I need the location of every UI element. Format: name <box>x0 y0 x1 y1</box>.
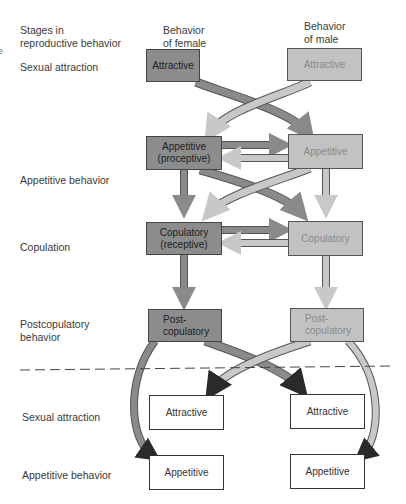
male-postcopulatory-box: Post- copulatory <box>290 308 364 342</box>
male-appetitive-label: Appetitive <box>304 146 348 158</box>
female-attractive-next-box: Attractive <box>149 395 224 430</box>
female-postcopulatory-label: Post- copulatory <box>163 314 209 338</box>
cycle-divider <box>20 366 395 370</box>
female-appetitive-next-box: Appetitive <box>149 455 224 490</box>
female-attractive-label: Attractive <box>152 60 194 72</box>
male-appetitive-next-label: Appetitive <box>306 466 350 478</box>
male-appetitive-box: Appetitive <box>288 134 363 169</box>
female-copulatory-label: Copulatory (receptive) <box>160 227 208 251</box>
female-copulatory-box: Copulatory (receptive) <box>146 222 222 255</box>
male-copulatory-box: Copulatory <box>288 221 363 256</box>
female-appetitive-label: Appetitive (proceptive) <box>158 141 211 165</box>
male-attractive-next-label: Attractive <box>307 406 349 418</box>
female-postcopulatory-box: Post- copulatory <box>148 309 222 342</box>
female-appetitive-next-label: Appetitive <box>165 467 209 479</box>
female-appetitive-box: Appetitive (proceptive) <box>146 136 222 170</box>
female-attractive-next-label: Attractive <box>166 407 208 419</box>
female-attractive-box: Attractive <box>146 49 200 82</box>
male-postcopulatory-label: Post- copulatory <box>305 313 351 337</box>
male-copulatory-label: Copulatory <box>301 233 349 245</box>
male-attractive-next-box: Attractive <box>290 394 365 429</box>
male-attractive-box: Attractive <box>287 48 362 81</box>
male-appetitive-next-box: Appetitive <box>290 454 365 489</box>
male-attractive-label: Attractive <box>304 59 346 71</box>
